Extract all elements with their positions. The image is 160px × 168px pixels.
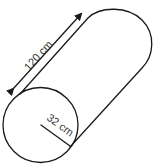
radius-label: 32 cm [45,111,76,138]
length-label: 120 cm [21,38,54,73]
cylinder-body-outline [20,9,152,147]
cylinder-diagram: 120 cm 32 cm [0,0,160,168]
